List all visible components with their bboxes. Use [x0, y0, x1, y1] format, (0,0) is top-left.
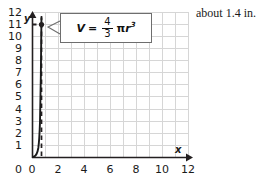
volume-formula: V = 4 3 πr3 [76, 17, 135, 39]
formula-variable: V [76, 23, 85, 34]
fraction-denominator: 3 [102, 28, 112, 40]
y-tick-7: 7 [4, 67, 22, 78]
y-tick-4: 4 [4, 104, 22, 115]
y-tick-3: 3 [4, 116, 22, 127]
fraction-numerator: 4 [102, 17, 112, 28]
x-axis-label: x [175, 145, 181, 155]
formula-pi-r-term: πr3 [117, 22, 136, 34]
answer-text: about 1.4 in. [196, 6, 256, 21]
curve-path [34, 18, 42, 157]
y-tick-10: 10 [4, 31, 22, 42]
y-tick-6: 6 [4, 79, 22, 90]
x-tick-2: 2 [49, 164, 67, 175]
x-tick-8: 8 [127, 164, 145, 175]
y-tick-0: 0 [4, 164, 22, 175]
y-tick-12: 12 [4, 7, 22, 18]
x-axis-arrow [186, 154, 193, 162]
formula-equals: = [88, 23, 97, 34]
y-tick-5: 5 [4, 91, 22, 102]
formula-fraction: 4 3 [102, 17, 112, 39]
x-tick-0: 0 [23, 164, 41, 175]
y-axis-label: y [24, 14, 31, 24]
y-tick-8: 8 [4, 55, 22, 66]
radius-exponent: 3 [131, 21, 136, 29]
y-tick-2: 2 [4, 128, 22, 139]
pi-symbol: π [117, 22, 126, 35]
y-tick-11: 11 [4, 19, 22, 30]
x-tick-10: 10 [153, 164, 171, 175]
x-tick-6: 6 [101, 164, 119, 175]
y-tick-9: 9 [4, 43, 22, 54]
formula-callout: V = 4 3 πr3 [60, 13, 152, 43]
x-tick-12: 12 [179, 164, 197, 175]
graph-figure: 12 11 10 9 8 7 6 5 4 3 2 1 0 0 2 4 6 8 1… [0, 0, 262, 190]
curve-point-marker [39, 22, 44, 27]
x-tick-4: 4 [75, 164, 93, 175]
y-tick-1: 1 [4, 140, 22, 151]
